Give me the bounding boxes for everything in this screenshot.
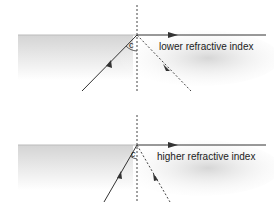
refraction-diagram: c lower refractive index c higher refrac… <box>0 0 274 217</box>
medium-label: lower refractive index <box>159 41 253 52</box>
medium-shade-right <box>120 30 274 86</box>
medium-shade-left <box>18 35 133 80</box>
angle-label: c <box>129 40 134 50</box>
medium-label: higher refractive index <box>157 151 255 162</box>
angle-label: c <box>131 149 136 159</box>
panel-higher-index: c higher refractive index <box>18 115 274 202</box>
medium-shade-right <box>120 140 274 196</box>
panel-lower-index: c lower refractive index <box>18 5 274 92</box>
medium-shade-left <box>18 145 133 190</box>
